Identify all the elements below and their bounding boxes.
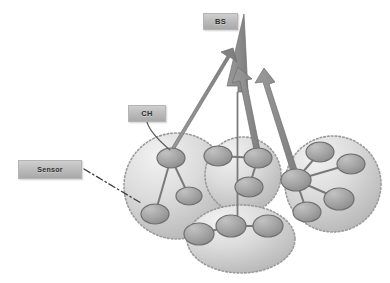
node-sensor-right-3[interactable] xyxy=(324,188,354,210)
node-sensor-mid-2[interactable] xyxy=(235,177,263,197)
node-ch-right[interactable] xyxy=(281,169,311,191)
label-base-station: BS xyxy=(203,13,238,30)
node-sensor-left-2[interactable] xyxy=(141,204,169,224)
node-sensor-mid-1[interactable] xyxy=(204,146,232,166)
node-sensor-right-1[interactable] xyxy=(306,142,334,162)
network-diagram xyxy=(0,0,390,283)
node-sensor-right-4[interactable] xyxy=(293,202,321,222)
node-sensor-right-2[interactable] xyxy=(337,154,365,174)
node-sensor-left-1[interactable] xyxy=(176,187,202,205)
node-sensor-bottom-2[interactable] xyxy=(253,215,283,237)
label-sensor: Sensor xyxy=(18,160,82,179)
uplink-arrow-left xyxy=(169,48,237,155)
figure-canvas: BS CH Sensor xyxy=(0,0,390,283)
node-ch-mid[interactable] xyxy=(244,148,272,168)
label-cluster-head: CH xyxy=(128,105,166,122)
node-ch-left[interactable] xyxy=(157,148,185,168)
node-sensor-bottom-1[interactable] xyxy=(184,223,214,245)
node-ch-bottom[interactable] xyxy=(216,215,246,237)
